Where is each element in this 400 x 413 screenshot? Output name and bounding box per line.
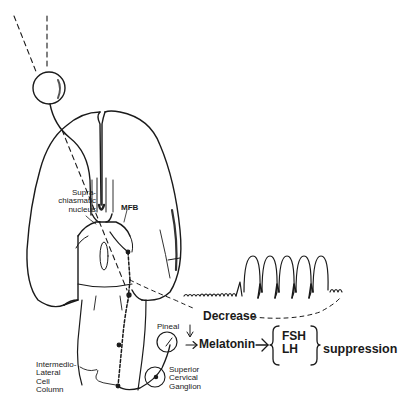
label-suppression: suppression: [323, 343, 397, 356]
label-line: Column: [36, 386, 76, 394]
label-fsh: FSH: [282, 330, 306, 343]
diagram-canvas: Supra- chiasmatic nucleus MFB Pineal Sup…: [0, 0, 400, 413]
label-pineal: Pineal: [157, 323, 179, 331]
label-fsh-lh: FSH LH: [282, 330, 306, 355]
melatonin-to-hormones-arrow: [256, 339, 268, 351]
pineal-to-melatonin-arrow: [186, 342, 197, 349]
label-line: Ganglion: [169, 383, 201, 391]
dashed-link: [130, 280, 193, 308]
eye-icon: [33, 72, 65, 104]
label-decrease: Decrease: [203, 310, 256, 323]
label-intermediolateral-cell-column: Intermedio- Lateral Cell Column: [36, 361, 76, 395]
label-mfb: MFB: [121, 204, 138, 212]
label-suprachiasmatic-nucleus: Supra- chiasmatic nucleus: [58, 189, 96, 214]
label-lh: LH: [282, 343, 306, 356]
brain-hemispheres: [27, 111, 181, 307]
light-rays: [14, 16, 127, 290]
label-melatonin: Melatonin: [199, 338, 255, 351]
decrease-dashed-arc: [244, 298, 340, 318]
label-line: nucleus: [58, 206, 96, 214]
brainstem: [78, 296, 147, 390]
pineal-gland: [157, 332, 177, 352]
decrease-arrow: [187, 325, 193, 337]
label-superior-cervical-ganglion: Superior Cervical Ganglion: [169, 366, 201, 391]
gonadal-activity-trace: [184, 256, 342, 298]
